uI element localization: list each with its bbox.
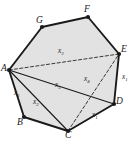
label-x5-ad: x5 [55, 82, 61, 89]
vertex-label-E: E [121, 45, 127, 55]
label-x5-ad-subscript: 5 [58, 85, 60, 90]
label-x4-ce: x4 [84, 76, 90, 83]
vertex-label-F: F [84, 5, 90, 15]
label-x1-de: x1 [122, 74, 128, 81]
vertex-label-B: B [17, 118, 23, 128]
vertex-label-A: A [1, 64, 7, 74]
vertex-dot-A [7, 68, 11, 72]
label-x1-cd-subscript: 1 [95, 115, 97, 120]
vertex-label-G: G [36, 16, 43, 26]
label-x3-ae: x3 [58, 48, 64, 55]
label-x4-ce-subscript: 4 [87, 79, 89, 84]
label-x2-ac-subscript: 2 [36, 102, 38, 107]
label-x1-ab-subscript: 1 [17, 93, 19, 98]
vertex-label-D: D [116, 97, 123, 107]
vertex-dot-G [40, 25, 44, 29]
vertex-dot-F [86, 15, 90, 19]
label-x1-cd: x1 [92, 112, 98, 119]
label-x2-ac: x2 [33, 99, 39, 106]
label-x1-ab: x1 [14, 90, 20, 97]
geometry-figure: ABCDEFG x1x2x3x4x5x1x1 [0, 0, 138, 142]
label-x1-de-subscript: 1 [125, 77, 127, 82]
label-x3-ae-subscript: 3 [61, 51, 63, 56]
vertex-label-C: C [65, 131, 71, 141]
